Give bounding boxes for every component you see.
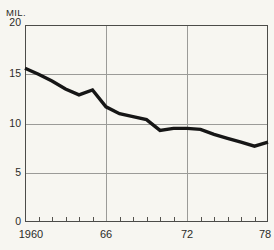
y-tick-label-15: 15	[5, 68, 21, 79]
line-chart-canvas	[0, 0, 274, 250]
y-tick-label-5: 5	[5, 167, 21, 178]
y-tick-label-10: 10	[5, 118, 21, 129]
chart-figure: MIL. 20 15 10 5 0 1960 66 72 78	[0, 0, 274, 250]
x-tick-label-66: 66	[90, 229, 122, 240]
x-tick-label-72: 72	[171, 229, 203, 240]
y-tick-label-20: 20	[5, 17, 21, 28]
x-tick-label-78: 78	[249, 229, 274, 240]
y-tick-label-0: 0	[5, 216, 21, 227]
plot-border	[26, 26, 268, 222]
x-tick-label-1960: 1960	[15, 229, 47, 240]
data-line-series	[25, 68, 268, 146]
